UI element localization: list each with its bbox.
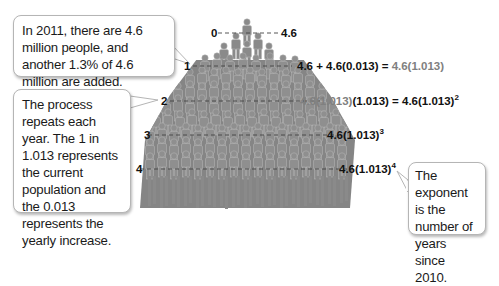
callout-exponent-text: The exponent is the number of years sinc…	[415, 168, 473, 285]
year-label-0: 0	[211, 27, 217, 39]
callout-process-text: The process repeats each year. The 1 in …	[22, 97, 118, 248]
expression-year-0: 4.6	[281, 27, 297, 39]
expression-y2-rest: (1.013) = 4.6(1.013)	[352, 95, 454, 107]
callout-process: The process repeats each year. The 1 in …	[13, 89, 131, 213]
year-label-1: 1	[184, 60, 190, 72]
expression-year-3: 4.6(1.013)3	[327, 129, 384, 141]
callout-intro: In 2011, there are 4.6 million people, a…	[13, 15, 175, 77]
expression-year-4: 4.6(1.013)4	[339, 163, 396, 175]
expression-y4-exponent: 4	[391, 161, 395, 170]
expression-year-2: 4.6(1.013)(1.013) = 4.6(1.013)2	[300, 95, 459, 107]
expression-y0-text: 4.6	[281, 27, 297, 39]
expression-y3-exponent: 3	[379, 127, 383, 136]
year-label-2: 2	[161, 95, 167, 107]
expression-y1-rhs: 4.6(1.013)	[392, 60, 444, 72]
expression-y3-base: 4.6(1.013)	[327, 129, 379, 141]
year-label-3: 3	[144, 129, 150, 141]
expression-y2-exponent: 2	[454, 93, 458, 102]
callout-exponent: The exponent is the number of years sinc…	[408, 162, 486, 235]
expression-y2-gray: 4.6(1.013)	[300, 95, 352, 107]
expression-y1-lhs: 4.6 + 4.6(0.013) =	[297, 60, 392, 72]
expression-y4-base: 4.6(1.013)	[339, 163, 391, 175]
year-label-4: 4	[136, 163, 142, 175]
expression-year-1: 4.6 + 4.6(0.013) = 4.6(1.013)	[297, 60, 444, 72]
